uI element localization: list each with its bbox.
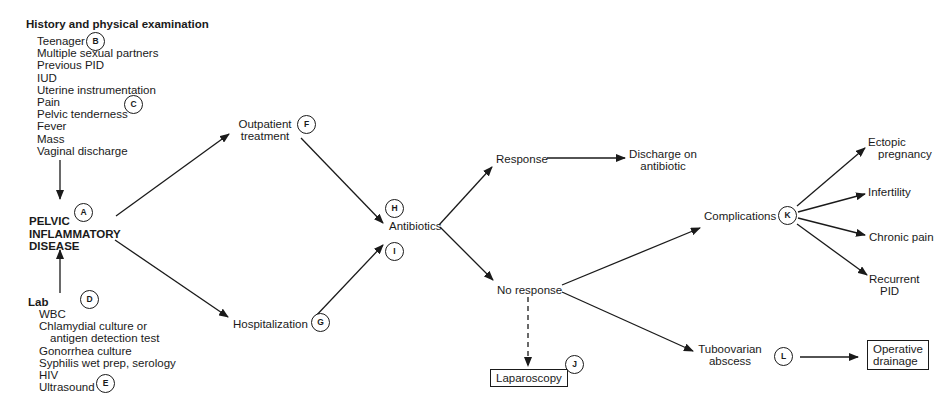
node-operative-drainage: Operative drainage	[867, 340, 929, 370]
marker-l: L	[774, 347, 793, 366]
node-laparoscopy: Laparoscopy	[490, 369, 568, 387]
node-infertility: Infertility	[868, 186, 911, 198]
lab-item: Chlamydial culture or	[39, 320, 176, 332]
node-ectopic-pregnancy: Ectopic pregnancy	[868, 136, 932, 160]
marker-a: A	[74, 203, 93, 222]
history-item: Vaginal discharge	[37, 145, 158, 157]
lab-heading: Lab	[28, 296, 48, 308]
marker-h: H	[385, 199, 404, 218]
node-complications: Complications	[704, 210, 776, 222]
pid-title: PELVIC INFLAMMATORY DISEASE	[29, 215, 121, 253]
marker-j: J	[565, 355, 584, 374]
node-tuboovarian: Tuboovarian abscess	[696, 343, 764, 367]
node-recurrent-pid: Recurrent PID	[869, 273, 920, 297]
lab-item: antigen detection test	[39, 332, 176, 344]
node-chronic-pain: Chronic pain	[869, 231, 934, 243]
lab-item: WBC	[39, 308, 176, 320]
history-item: Fever	[37, 120, 158, 132]
history-item: Uterine instrumentation	[37, 84, 158, 96]
history-item: Mass	[37, 133, 158, 145]
pid-flowchart: History and physical examination Teenage…	[0, 0, 952, 408]
lab-item: Syphilis wet prep, serology	[39, 357, 176, 369]
marker-f: F	[297, 115, 316, 134]
marker-i: I	[385, 242, 404, 261]
lab-item: Gonorrhea culture	[39, 345, 176, 357]
node-antibiotics: Antibiotics	[389, 220, 441, 232]
marker-c: C	[124, 95, 143, 114]
history-item: Previous PID	[37, 59, 158, 71]
node-discharge: Discharge on antibiotic	[628, 148, 698, 172]
history-item: IUD	[37, 72, 158, 84]
marker-k: K	[778, 206, 797, 225]
marker-g: G	[311, 313, 330, 332]
node-no-response: No response	[497, 284, 562, 296]
marker-b: B	[86, 32, 105, 51]
history-list: Teenager Multiple sexual partners Previo…	[37, 35, 158, 157]
marker-e: E	[96, 374, 115, 393]
node-response: Response	[496, 153, 548, 165]
node-hospitalization: Hospitalization	[233, 318, 308, 330]
history-heading: History and physical examination	[26, 18, 209, 30]
marker-d: D	[80, 290, 99, 309]
node-outpatient: Outpatient treatment	[233, 118, 297, 142]
